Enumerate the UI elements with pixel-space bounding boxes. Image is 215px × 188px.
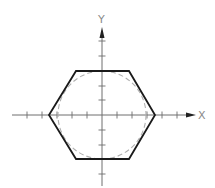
x-axis-arrow-icon [186,113,196,118]
y-axis-arrow-icon [100,27,105,38]
y-axis: Y [97,13,106,186]
coordinate-diagram: X Y [0,0,215,188]
x-axis: X [12,109,206,122]
x-axis-label: X [198,109,206,122]
y-axis-label: Y [97,13,105,26]
